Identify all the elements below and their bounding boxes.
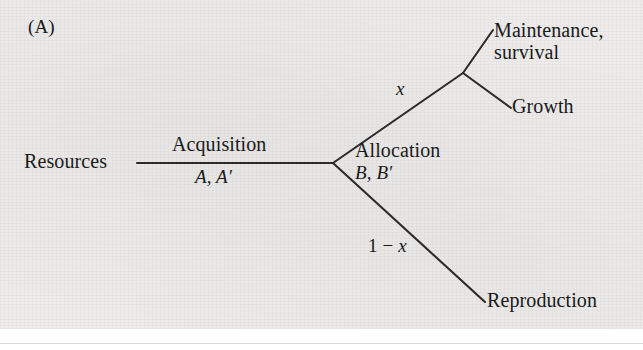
maintenance-line-2: survival <box>494 41 559 63</box>
edge-subfork-to-growth <box>463 73 511 108</box>
bottom-divider-rule <box>0 343 643 344</box>
edge-subfork-to-maintenance <box>463 30 493 73</box>
edge-label-acquisition-params: A, A′ <box>195 166 232 187</box>
edge-label-allocation-fraction-one-minus-x: 1 − x <box>368 235 407 256</box>
edge-label-allocation-params: B, B′ <box>355 162 392 183</box>
node-label-maintenance-survival: Maintenance,survival <box>494 19 603 64</box>
figure-panel-a: (A) Resources Acquisition A, A′ Allocati… <box>0 0 643 350</box>
panel-label: (A) <box>28 16 55 37</box>
edge-label-allocation-fraction-x: x <box>396 78 405 99</box>
edge-label-allocation: Allocation <box>355 139 440 161</box>
node-label-resources: Resources <box>24 150 107 172</box>
edge-fork-to-reproduction <box>333 163 485 302</box>
one-minus-prefix: 1 − <box>368 235 398 256</box>
node-label-reproduction: Reproduction <box>487 289 597 311</box>
edge-label-acquisition: Acquisition <box>172 133 266 155</box>
one-minus-variable: x <box>398 235 407 256</box>
node-label-growth: Growth <box>512 95 574 117</box>
bottom-white-gap <box>0 329 643 350</box>
maintenance-line-1: Maintenance, <box>494 19 603 41</box>
